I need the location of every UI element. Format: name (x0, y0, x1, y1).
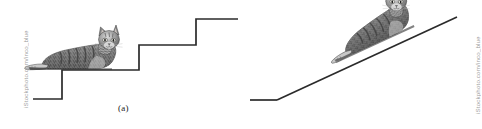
panel-b: (b) (241, 0, 482, 129)
panel-a: (a) (0, 0, 241, 129)
figure-container: (a) (0, 0, 482, 129)
watermark-right: iStockphoto.com/inco_blue (474, 36, 481, 114)
cat-illustration-b (311, 0, 425, 65)
cat-illustration-a (25, 25, 123, 70)
panel-b-graphics (241, 0, 482, 129)
caption-panel-a: (a) (118, 103, 129, 113)
cat-shadow (30, 68, 112, 70)
watermark-left: iStockphoto.com/inco_blue (22, 30, 29, 108)
